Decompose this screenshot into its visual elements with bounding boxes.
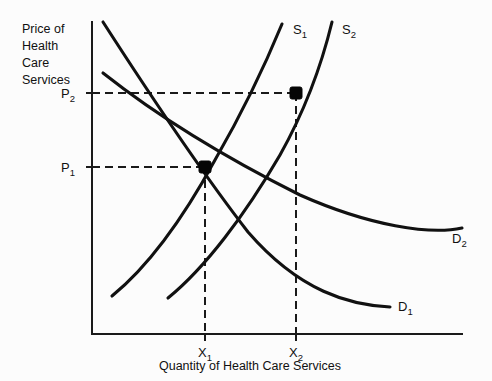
y-tick-label-p2: P2 — [61, 86, 75, 104]
curve-label-supply-2: S2 — [342, 22, 356, 40]
chart-canvas: Price of Health Care Services Quantity o… — [0, 0, 492, 381]
y-axis-title-line-1: Price of — [22, 22, 65, 36]
x-axis-title-group: Quantity of Health Care Services — [159, 359, 341, 373]
y-axis-title-line-4: Services — [22, 73, 70, 87]
axes-group — [92, 22, 462, 334]
curve-label-demand-1: D1 — [398, 299, 413, 317]
axis-lines — [92, 22, 462, 334]
x-axis-title: Quantity of Health Care Services — [159, 359, 341, 373]
y-axis-title: Price of Health Care Services — [22, 22, 70, 87]
y-tick-label-p1: P1 — [61, 160, 75, 178]
curve-label-demand-2: D2 — [452, 231, 467, 249]
supply-demand-figure: Price of Health Care Services Quantity o… — [0, 0, 492, 381]
curve-label-supply-1: S1 — [293, 22, 307, 40]
y-axis-title-line-3: Care — [22, 56, 49, 70]
curve-supply-2 — [168, 22, 332, 298]
equilibrium-point-1 — [199, 161, 211, 173]
equilibrium-point-2 — [290, 87, 302, 99]
guide-lines-group — [92, 93, 296, 334]
curves-group — [103, 22, 462, 307]
y-tick-group: P2 P1 — [61, 86, 92, 178]
y-axis-title-line-2: Health — [22, 39, 58, 53]
